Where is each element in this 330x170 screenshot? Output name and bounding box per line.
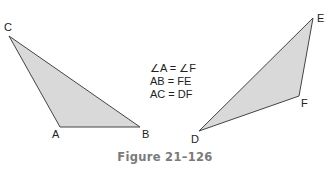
vertex-label-a: A [52, 129, 59, 140]
figure-caption: Figure 21–126 [0, 150, 330, 164]
vertex-label-b: B [142, 129, 149, 140]
equation-ab-fe: AB = FE [150, 76, 191, 87]
figure: C A B E F D ∠A = ∠F AB = FE AC = DF Figu… [0, 0, 330, 170]
equation-ac-df: AC = DF [150, 89, 192, 100]
vertex-label-d: D [191, 134, 199, 145]
triangle-abc [9, 36, 140, 127]
vertex-label-f: F [301, 98, 308, 109]
vertex-label-e: E [317, 13, 324, 24]
equation-angle: ∠A = ∠F [150, 63, 196, 74]
vertex-label-c: C [4, 22, 12, 33]
triangle-def [199, 18, 313, 131]
